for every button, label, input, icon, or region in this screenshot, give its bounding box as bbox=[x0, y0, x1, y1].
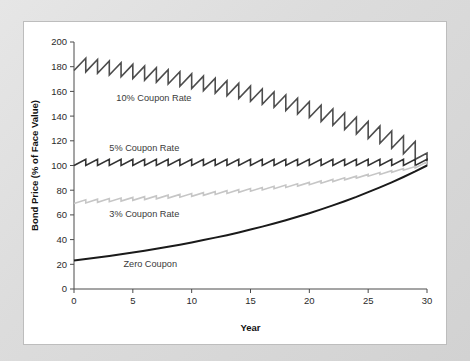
figure-background: 020406080100120140160180200051015202530 … bbox=[0, 0, 470, 361]
series-annotation-label: 10% Coupon Rate bbox=[116, 93, 191, 103]
y-axis-title: Bond Price (% of Face Value) bbox=[29, 100, 40, 231]
x-tick-label: 20 bbox=[304, 295, 315, 306]
series-line bbox=[74, 159, 427, 165]
series-annotation-label: 5% Coupon Rate bbox=[109, 143, 179, 153]
series-annotation-label: Zero Coupon bbox=[123, 259, 177, 269]
y-tick-label: 80 bbox=[56, 185, 67, 196]
y-tick-label: 200 bbox=[51, 36, 67, 47]
series-annotation-label: 3% Coupon Rate bbox=[109, 209, 179, 219]
y-tick-label: 180 bbox=[51, 61, 67, 72]
x-tick-label: 30 bbox=[422, 295, 433, 306]
y-tick-label: 160 bbox=[51, 86, 67, 97]
series-group bbox=[74, 58, 427, 260]
x-axis-title: Year bbox=[240, 322, 260, 333]
axes-group: 020406080100120140160180200051015202530 bbox=[51, 36, 432, 306]
y-tick-label: 120 bbox=[51, 135, 67, 146]
x-tick-label: 5 bbox=[130, 295, 135, 306]
series-line bbox=[74, 162, 427, 204]
x-tick-label: 0 bbox=[71, 295, 76, 306]
bond-price-chart: 020406080100120140160180200051015202530 … bbox=[24, 22, 446, 344]
y-tick-label: 100 bbox=[51, 160, 67, 171]
y-tick-label: 40 bbox=[56, 234, 67, 245]
chart-panel: 020406080100120140160180200051015202530 … bbox=[23, 21, 447, 345]
y-tick-label: 140 bbox=[51, 111, 67, 122]
x-tick-label: 10 bbox=[186, 295, 197, 306]
x-tick-label: 25 bbox=[363, 295, 374, 306]
x-tick-label: 15 bbox=[245, 295, 256, 306]
y-tick-label: 0 bbox=[62, 283, 67, 294]
y-tick-label: 60 bbox=[56, 209, 67, 220]
annotation-group: 10% Coupon Rate5% Coupon Rate3% Coupon R… bbox=[109, 93, 191, 268]
y-tick-label: 20 bbox=[56, 259, 67, 270]
